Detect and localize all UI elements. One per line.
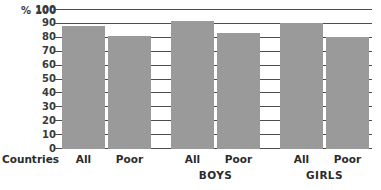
x-tick-label: Poor [326, 154, 369, 165]
tick-mark-40 [55, 92, 60, 93]
tick-mark-90 [55, 23, 60, 24]
bar [171, 21, 214, 149]
x-tick-label: Poor [108, 154, 151, 165]
tick-mark-100 [55, 9, 60, 10]
y-tick-label-40: 40 [42, 88, 56, 98]
bar [217, 33, 260, 148]
tick-mark-70 [55, 51, 60, 52]
x-tick-label: All [62, 154, 105, 165]
bar [108, 36, 151, 149]
y-tick-label-90: 90 [42, 18, 56, 28]
y-tick-label-50: 50 [42, 74, 56, 84]
y-tick-label-60: 60 [42, 60, 56, 70]
x-tick-label: All [280, 154, 323, 165]
x-group-label-boys: BOYS [171, 170, 260, 181]
tick-mark-60 [55, 65, 60, 66]
bar [326, 37, 369, 148]
bar [62, 26, 105, 148]
plot-area [60, 10, 372, 149]
x-tick-label: All [171, 154, 214, 165]
gridline-100 [60, 9, 372, 10]
y-tick-label-20: 20 [42, 116, 56, 126]
y-tick-label-80: 80 [42, 32, 56, 42]
bar [280, 23, 323, 148]
x-group-label-girls: GIRLS [280, 170, 369, 181]
y-tick-label-70: 70 [42, 46, 56, 56]
gridline-90 [60, 23, 372, 24]
x-axis-labels: Countries AllPoorAllPoorBOYSAllPoorGIRLS [0, 152, 381, 190]
y-tick-label-30: 30 [42, 102, 56, 112]
tick-mark-0 [55, 148, 60, 149]
tick-mark-30 [55, 106, 60, 107]
tick-mark-20 [55, 120, 60, 121]
x-tick-label: Poor [217, 154, 260, 165]
tick-mark-10 [55, 134, 60, 135]
y-tick-label-100: 100 [35, 5, 56, 15]
y-tick-label-10: 10 [42, 130, 56, 140]
tick-mark-50 [55, 79, 60, 80]
bar-chart: % 100 0102030405060708090100 Countries A… [0, 0, 381, 190]
x-axis-row-label: Countries [2, 154, 59, 165]
tick-mark-80 [55, 37, 60, 38]
